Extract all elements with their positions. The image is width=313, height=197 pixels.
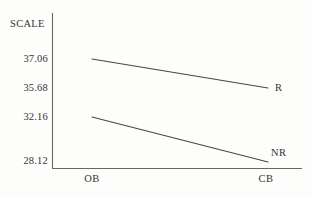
chart-figure: SCALE 37.06 35.68 32.16 28.12 OB CB R NR bbox=[0, 0, 313, 197]
x-tick-label-ob: OB bbox=[72, 174, 112, 185]
y-tick-label-32-16: 32.16 bbox=[4, 112, 48, 123]
y-tick-label-37-06: 37.06 bbox=[4, 54, 48, 65]
plot-canvas bbox=[0, 0, 313, 197]
y-tick-label-35-68: 35.68 bbox=[4, 83, 48, 94]
series-label-r: R bbox=[275, 83, 282, 94]
series-line-nr bbox=[92, 117, 268, 162]
series-label-nr: NR bbox=[271, 148, 286, 159]
y-tick-label-28-12: 28.12 bbox=[4, 156, 48, 167]
y-axis-title: SCALE bbox=[10, 19, 45, 30]
x-tick-label-cb: CB bbox=[246, 174, 286, 185]
series-line-r bbox=[92, 59, 268, 88]
